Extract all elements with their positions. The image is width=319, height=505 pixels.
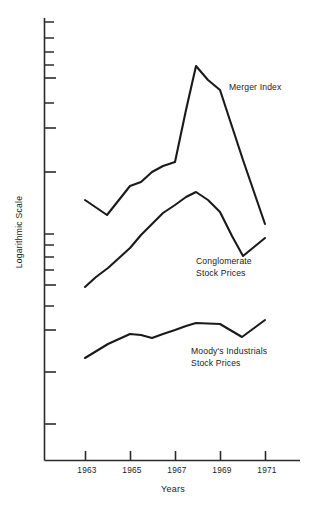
x-tick-label-1971: 1971 [257, 465, 276, 475]
x-axis-ticks [86, 451, 266, 461]
annotation-merger-index: Merger Index [229, 82, 282, 92]
x-tick-label-1967: 1967 [167, 465, 186, 475]
x-tick-label-1965: 1965 [122, 465, 141, 475]
annotation-moodys-line1: Moody's Industrials [191, 346, 267, 356]
chart-container: 1963 1965 1967 1969 1971 Years Logarithm… [0, 0, 319, 505]
annotation-conglomerate-line1: Conglomerate [196, 256, 252, 266]
y-axis-ticks [45, 22, 57, 424]
y-axis-title: Logarithmic Scale [14, 196, 24, 269]
line-chart: 1963 1965 1967 1969 1971 Years Logarithm… [0, 0, 319, 505]
x-axis-tick-labels: 1963 1965 1967 1969 1971 [77, 465, 276, 475]
x-tick-label-1963: 1963 [77, 465, 96, 475]
annotation-moodys-line2: Stock Prices [191, 358, 241, 368]
x-tick-label-1969: 1969 [212, 465, 231, 475]
annotation-conglomerate-line2: Stock Prices [196, 268, 246, 278]
x-axis-title: Years [161, 484, 185, 494]
